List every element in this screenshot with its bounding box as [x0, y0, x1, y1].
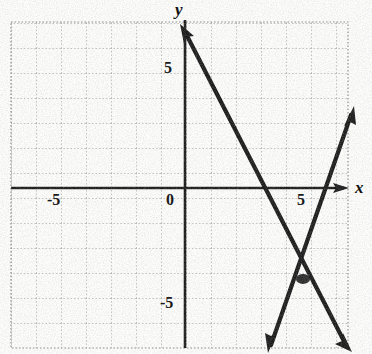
x-axis-name-label: x: [355, 179, 364, 196]
y-axis-tick-label-pos5: 5: [164, 60, 172, 76]
x-axis-tick-label-pos5: 5: [297, 192, 305, 208]
y-axis-tick-label-neg5: -5: [160, 295, 173, 311]
coordinate-plane: [0, 0, 372, 354]
graph-figure: -5 0 5 5 -5 y x: [0, 0, 372, 354]
y-axis-name-label: y: [175, 1, 183, 18]
scan-noise-overlay: [0, 0, 372, 354]
origin-label: 0: [166, 192, 174, 208]
x-axis-tick-label-neg5: -5: [47, 192, 60, 208]
